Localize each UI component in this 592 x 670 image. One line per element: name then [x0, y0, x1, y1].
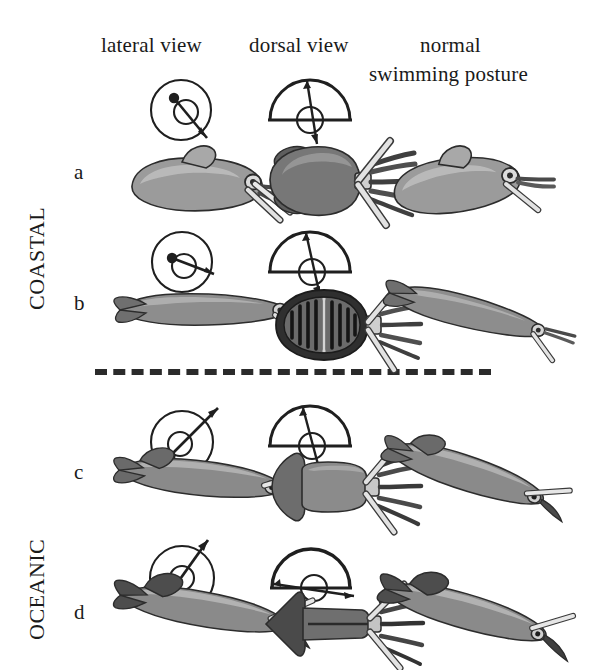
- column-header-normal: normal: [420, 33, 481, 58]
- column-header-dorsal-view: dorsal view: [249, 33, 349, 58]
- animal-b-normal-posture: [378, 278, 553, 358]
- row-letter-a: a: [74, 160, 83, 185]
- row-letter-d: d: [74, 600, 85, 625]
- row-letter-b: b: [74, 291, 85, 316]
- group-label-coastal: COASTAL: [24, 207, 50, 310]
- column-header-swimming-posture: swimming posture: [369, 62, 528, 87]
- row-letter-c: c: [74, 460, 83, 485]
- animal-a-normal-posture: [384, 140, 544, 232]
- column-header-lateral-view: lateral view: [101, 33, 202, 58]
- animal-d-normal-posture: [372, 578, 557, 660]
- figure-canvas: lateral view dorsal view normal swimming…: [0, 0, 592, 670]
- animal-c-normal-posture: [376, 440, 556, 520]
- group-label-oceanic: OCEANIC: [24, 539, 50, 640]
